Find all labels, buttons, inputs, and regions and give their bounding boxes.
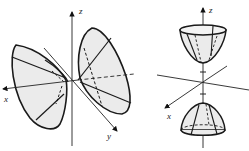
z-axis-label: z — [208, 5, 213, 15]
left-diagram-svg: z y x — [0, 0, 135, 151]
z-axis-label: z — [78, 6, 83, 16]
upper-sheet — [180, 25, 226, 63]
x-axis-label: x — [3, 94, 8, 104]
y-axis-label: y — [106, 131, 111, 141]
right-diagram-svg: z x — [125, 0, 249, 151]
right-sheet — [78, 28, 131, 114]
x-axis-label: x — [166, 111, 171, 121]
y-axis-back — [203, 66, 227, 82]
lower-sheet — [181, 103, 225, 135]
right-figure-hyperboloid-z: z x — [125, 0, 249, 151]
left-figure-hyperboloid-x: z y x — [0, 0, 135, 151]
